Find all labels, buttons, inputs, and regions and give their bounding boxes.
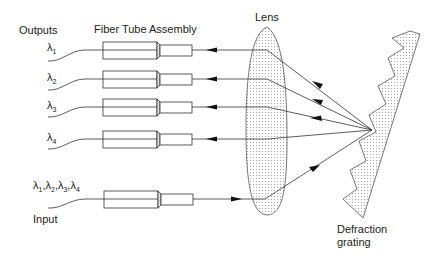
fiber-tube-assembly-label: Fiber Tube Assembly (94, 24, 197, 35)
diagram-graphics (0, 0, 439, 260)
grating-label-line2: grating (337, 237, 371, 248)
outputs-label: Outputs (19, 25, 58, 36)
output-lambda-1: λ1 (47, 42, 56, 55)
lens-shape (246, 27, 287, 215)
output-lambda-4: λ4 (47, 132, 56, 145)
grating-shape (343, 31, 420, 218)
diagram: Outputs Fiber Tube Assembly Lens λ1 λ2 λ… (0, 0, 439, 260)
input-label: Input (33, 214, 57, 225)
output-lambda-3: λ3 (47, 100, 56, 113)
output-lambda-2: λ2 (47, 72, 56, 85)
grating-label-line1: Defraction (337, 224, 387, 235)
input-wavelengths-label: λ1,λ2,λ3,λ4 (33, 180, 80, 193)
lens-label: Lens (255, 12, 279, 23)
